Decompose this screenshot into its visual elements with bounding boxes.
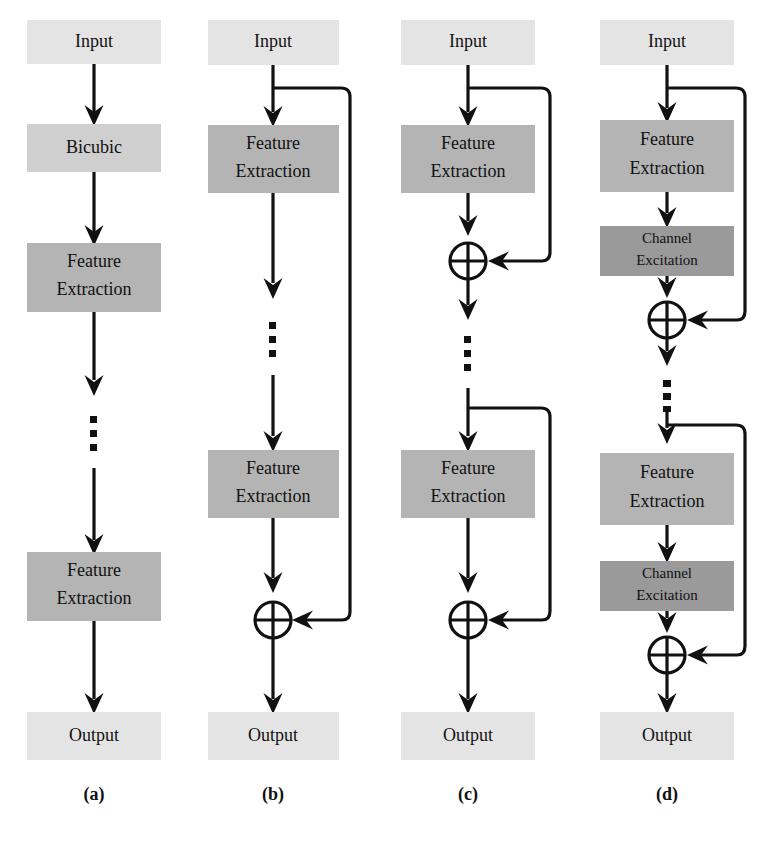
block-a-feature-extraction-2: Feature Extraction [27,552,161,621]
block-b-fe2-line1: Feature [246,458,300,478]
block-d-local-sum-1 [649,302,685,338]
block-c-feature-extraction-2: Feature Extraction [401,450,535,518]
block-b-input-label: Input [254,31,292,51]
block-b-feature-extraction-1: Feature Extraction [208,125,339,193]
block-d-input-label: Input [648,31,686,51]
block-d-output: Output [600,712,734,760]
block-d-feature-extraction-1: Feature Extraction [600,120,734,192]
arrow-d-fe2-to-ce2 [658,525,677,563]
arrow-b-fe1-to-ellipsis [264,193,283,299]
column-c: Input Feature Extraction [401,20,550,805]
block-a-input: Input [27,20,161,64]
column-b: Input Feature Extraction [208,20,350,805]
block-a-fe1-line1: Feature [67,251,121,271]
arrow-d-ellipsis-to-fe2 [658,412,677,444]
arrow-a-bicubic-to-fe1 [85,172,104,246]
block-b-fe2-line2: Extraction [236,486,311,506]
block-d-channel-excitation-1: Channel Excitation [600,226,734,276]
block-c-local-sum-2 [450,602,486,638]
block-b-output-label: Output [248,725,298,745]
block-d-output-label: Output [642,725,692,745]
block-a-bicubic: Bicubic [27,124,161,172]
arrow-d-ce1-to-sum1 [658,276,677,298]
block-c-local-sum-1 [450,243,486,279]
block-a-fe2-line1: Feature [67,560,121,580]
block-d-feature-extraction-2: Feature Extraction [600,453,734,525]
block-c-input: Input [401,20,535,65]
column-label-b: (b) [262,784,284,805]
block-b-global-sum [255,602,291,638]
column-a: Input Bicubic Feature Extraction [27,20,161,805]
block-d-ce1-line1: Channel [642,230,692,246]
block-d-ce2-line1: Channel [642,565,692,581]
arrow-a-ellipsis-to-fe2 [85,468,104,555]
block-a-bicubic-label: Bicubic [66,137,122,157]
block-a-fe2-line2: Extraction [57,588,132,608]
arrow-d-fe1-to-ce1 [658,192,677,228]
block-a-fe1-line2: Extraction [57,279,132,299]
arrow-b-ellipsis-to-fe2 [264,375,283,452]
block-c-fe1-line2: Extraction [431,161,506,181]
arrow-a-fe2-to-output [85,621,104,714]
arrow-d-sum1-to-ellipsis [658,338,677,366]
block-c-fe1-line1: Feature [441,133,495,153]
block-b-input: Input [208,20,339,65]
arrow-c-fe1-to-sum1 [459,193,478,236]
block-b-fe1-line2: Extraction [236,161,311,181]
block-c-feature-extraction-1: Feature Extraction [401,125,535,193]
block-c-output-label: Output [443,725,493,745]
arrow-d-input-to-fe1 [658,65,677,123]
column-d: Input Feature Extraction Channel Excitat… [600,20,745,805]
column-label-c: (c) [458,784,478,805]
column-label-a: (a) [84,784,105,805]
arrow-c-sum2-to-output [459,638,478,714]
skip-c-local-2 [468,408,550,630]
arrow-a-fe1-to-ellipsis [85,312,104,396]
a-vertical-ellipsis-icon [90,416,97,451]
block-a-output: Output [27,712,161,760]
b-vertical-ellipsis-icon [269,322,276,357]
arrow-b-sum-to-output [264,638,283,714]
arrow-b-fe2-to-sum [264,518,283,593]
block-d-fe1-line2: Extraction [630,158,705,178]
block-c-fe2-line1: Feature [441,458,495,478]
c-vertical-ellipsis-icon [464,336,471,371]
block-b-feature-extraction-2: Feature Extraction [208,450,339,518]
block-b-fe1-line1: Feature [246,133,300,153]
arrow-c-sum1-to-ellipsis [459,279,478,320]
figure-diagram: Input Bicubic Feature Extraction [0,0,775,843]
block-c-fe2-line2: Extraction [431,486,506,506]
block-d-input: Input [600,20,734,65]
block-d-fe2-line1: Feature [640,462,694,482]
arrow-d-ce2-to-sum2 [658,611,677,633]
arrow-c-fe2-to-sum2 [459,518,478,593]
arrow-d-sum2-to-output [658,673,677,714]
block-c-output: Output [401,712,535,760]
column-label-d: (d) [656,784,678,805]
block-d-fe2-line2: Extraction [630,491,705,511]
block-a-feature-extraction-1: Feature Extraction [27,243,161,312]
block-d-fe1-line1: Feature [640,129,694,149]
arrow-c-input-to-fe1 [459,65,478,127]
arrow-a-input-to-bicubic [85,64,104,126]
block-d-channel-excitation-2: Channel Excitation [600,561,734,611]
arrow-b-input-to-fe1 [264,65,283,127]
block-b-output: Output [208,712,339,760]
block-d-local-sum-2 [649,637,685,673]
arrow-c-ellipsis-to-fe2 [459,388,478,452]
block-d-ce2-line2: Excitation [636,587,698,603]
block-a-input-label: Input [75,31,113,51]
block-c-input-label: Input [449,31,487,51]
block-d-ce1-line2: Excitation [636,252,698,268]
block-a-output-label: Output [69,725,119,745]
